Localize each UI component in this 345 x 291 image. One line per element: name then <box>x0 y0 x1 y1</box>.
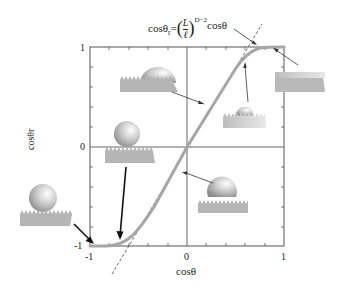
x-tick-1: 1 <box>281 252 286 262</box>
tangent-label: cosθ <box>207 20 227 31</box>
y-axis-label: cosθr <box>26 129 36 150</box>
inset-top-left <box>120 67 178 92</box>
inset-bottom-left <box>20 184 72 226</box>
x-axis-label: cosθ <box>176 266 196 277</box>
inset-mid-left <box>105 121 155 163</box>
y-tick-0: 0 <box>80 142 85 152</box>
arrow-far-right <box>276 50 298 65</box>
inset-center-right <box>223 107 266 128</box>
x-tick-neg1: -1 <box>85 252 93 262</box>
x-tick-0: 0 <box>184 252 189 262</box>
arrow-bottom-left <box>74 224 90 240</box>
arrow-center-right <box>245 66 248 102</box>
inset-bottom-right <box>198 177 248 213</box>
formula-label: cosθr=(Lℓ)D−2 <box>148 17 207 40</box>
y-tick-neg1: -1 <box>74 241 82 251</box>
arrow-bottom-right <box>186 173 213 183</box>
inset-far-right <box>275 72 325 92</box>
y-tick-1: 1 <box>80 43 85 53</box>
arrow-tangent-label <box>234 29 254 43</box>
arrow-mid-left <box>120 167 126 236</box>
wetting-diagram <box>0 0 345 291</box>
